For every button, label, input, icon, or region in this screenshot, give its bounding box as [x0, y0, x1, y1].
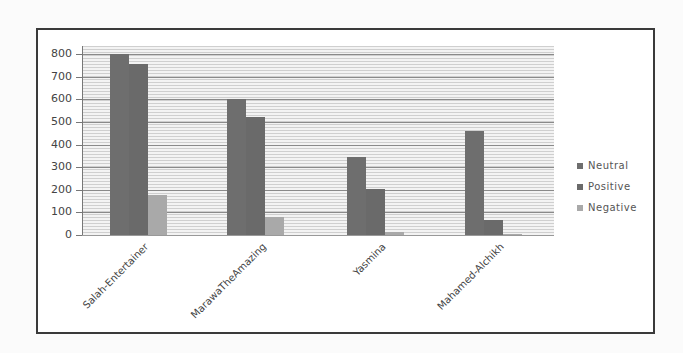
- bar-positive: [129, 64, 148, 235]
- legend-swatch-positive: [577, 184, 583, 190]
- y-tick-label: 200: [44, 184, 72, 196]
- y-tick: [76, 235, 82, 236]
- legend-item-neutral: Neutral: [577, 155, 637, 176]
- gridline: [82, 77, 554, 78]
- bar-neutral: [110, 54, 129, 235]
- legend-swatch-neutral: [577, 163, 583, 169]
- bar-positive: [484, 220, 503, 235]
- legend: Neutral Positive Negative: [577, 155, 637, 218]
- y-tick: [76, 54, 82, 55]
- bar-positive: [246, 117, 265, 235]
- gridline: [82, 99, 554, 100]
- legend-label: Neutral: [588, 160, 628, 171]
- bar-positive: [366, 189, 385, 235]
- legend-label: Positive: [588, 181, 631, 192]
- y-tick-label: 100: [44, 206, 72, 218]
- bar-negative: [503, 234, 522, 235]
- gridline: [82, 122, 554, 123]
- bar-neutral: [347, 157, 366, 235]
- y-tick-label: 300: [44, 161, 72, 173]
- y-tick: [76, 122, 82, 123]
- y-tick: [76, 99, 82, 100]
- legend-item-positive: Positive: [577, 176, 637, 197]
- legend-swatch-negative: [577, 205, 583, 211]
- y-tick-label: 700: [44, 71, 72, 83]
- y-tick-label: 800: [44, 48, 72, 60]
- bar-neutral: [465, 131, 484, 235]
- y-tick-label: 600: [44, 93, 72, 105]
- y-tick-label: 400: [44, 139, 72, 151]
- legend-label: Negative: [588, 202, 637, 213]
- y-tick: [76, 167, 82, 168]
- gridline: [82, 54, 554, 55]
- y-tick: [76, 77, 82, 78]
- bar-negative: [148, 195, 167, 235]
- bar-negative: [385, 232, 404, 235]
- bar-neutral: [227, 99, 246, 235]
- y-tick: [76, 145, 82, 146]
- y-tick-label: 0: [44, 229, 72, 241]
- x-axis: [82, 235, 554, 236]
- legend-item-negative: Negative: [577, 197, 637, 218]
- y-axis: [82, 46, 83, 236]
- y-tick-label: 500: [44, 116, 72, 128]
- bar-negative: [265, 217, 284, 235]
- y-tick: [76, 190, 82, 191]
- y-tick: [76, 212, 82, 213]
